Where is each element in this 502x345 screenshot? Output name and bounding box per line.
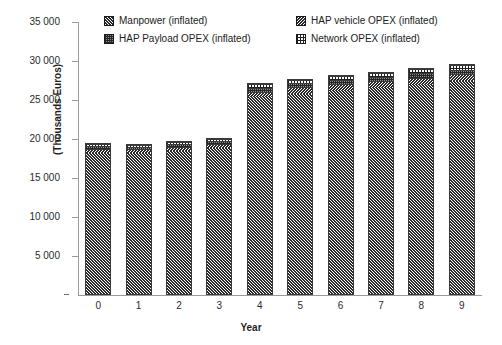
bar-3 — [206, 138, 232, 295]
x-tick-label: 9 — [442, 300, 482, 311]
y-tick-label: 10 000 — [29, 211, 60, 222]
bar-segment — [86, 153, 110, 294]
bar-8 — [408, 68, 434, 295]
bar-6 — [328, 75, 354, 295]
x-tick-label: 1 — [119, 300, 159, 311]
y-tick-label: 25 000 — [29, 94, 60, 105]
x-axis-title: Year — [0, 322, 502, 333]
bar-segment — [409, 84, 433, 294]
bar-segment — [167, 151, 191, 294]
bar-segment — [127, 153, 151, 294]
zero-tick-dash — [64, 294, 69, 295]
bar-5 — [287, 79, 313, 295]
bar-4 — [247, 83, 273, 295]
x-tick-label: 2 — [159, 300, 199, 311]
bar-segment — [369, 87, 393, 294]
bar-segment — [450, 74, 474, 81]
bar-0 — [85, 143, 111, 295]
plot-area — [78, 22, 482, 295]
bar-9 — [449, 64, 475, 295]
bar-segment — [450, 81, 474, 294]
x-tick-label: 7 — [361, 300, 401, 311]
bar-segment — [248, 97, 272, 294]
y-tick-label: 35 000 — [29, 16, 60, 27]
x-axis-line — [78, 295, 482, 296]
x-tick-label: 6 — [321, 300, 361, 311]
bar-segment — [207, 148, 231, 294]
x-tick-label: 4 — [240, 300, 280, 311]
y-tick-label: 20 000 — [29, 133, 60, 144]
bar-segment — [288, 94, 312, 294]
bar-segment — [329, 90, 353, 294]
bar-7 — [368, 72, 394, 295]
x-tick-label: 3 — [199, 300, 239, 311]
y-tick-label: 15 000 — [29, 172, 60, 183]
y-tick-label: 5 000 — [35, 250, 60, 261]
x-tick-label: 0 — [78, 300, 118, 311]
bar-chart: Manpower (inflated) HAP vehicle OPEX (in… — [0, 0, 502, 345]
y-tick-label: 30 000 — [29, 55, 60, 66]
x-tick-label: 5 — [280, 300, 320, 311]
bar-2 — [166, 141, 192, 295]
x-tick-label: 8 — [401, 300, 441, 311]
bar-1 — [126, 144, 152, 295]
